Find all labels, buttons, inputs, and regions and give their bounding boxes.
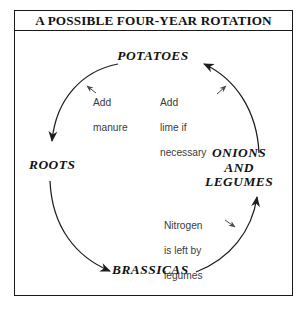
annotation-add-lime-line3: necessary <box>160 147 206 160</box>
arrow-brassicas-to-onions <box>196 197 257 272</box>
stage-label-onions-line1: ONIONS <box>205 146 273 161</box>
stage-label-potatoes: POTATOES <box>0 49 306 63</box>
stage-label-onions-line3: LEGUMES <box>205 175 273 190</box>
pointer-add-lime-icon <box>217 86 226 94</box>
pointer-nitrogen-icon <box>225 220 235 227</box>
annotation-add-lime-line2: lime if <box>160 122 206 135</box>
annotation-add-manure-line2: manure <box>93 122 128 135</box>
crop-rotation-figure: A POSSIBLE FOUR-YEAR ROTATION POTATOES R… <box>0 0 306 312</box>
stage-label-onions-line2: AND <box>205 161 273 176</box>
stage-label-onions-and-legumes: ONIONS AND LEGUMES <box>205 146 273 190</box>
page-title: A POSSIBLE FOUR-YEAR ROTATION <box>35 13 272 29</box>
annotation-add-lime: Add lime if necessary <box>160 84 206 172</box>
annotation-nitrogen-line1: Nitrogen <box>164 220 203 233</box>
annotation-nitrogen-line3: legumes <box>164 270 203 283</box>
annotation-add-lime-line1: Add <box>160 97 206 110</box>
figure-title-box: A POSSIBLE FOUR-YEAR ROTATION <box>14 10 293 31</box>
annotation-nitrogen: Nitrogen is left by legumes <box>164 207 203 295</box>
arrow-onions-to-potatoes <box>204 64 259 153</box>
annotation-add-manure: Add manure <box>93 84 128 147</box>
stage-label-roots: ROOTS <box>29 158 75 172</box>
annotation-add-manure-line1: Add <box>93 97 128 110</box>
arrow-roots-to-brassicas <box>50 181 110 271</box>
annotation-nitrogen-line2: is left by <box>164 245 203 258</box>
